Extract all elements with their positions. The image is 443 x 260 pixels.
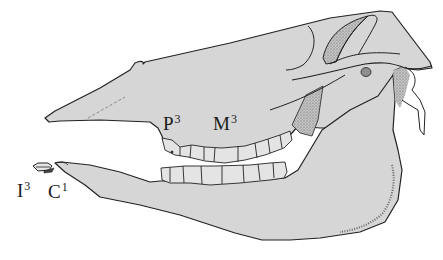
label-p3: P3 (163, 113, 181, 133)
label-i3: I3 (17, 180, 30, 200)
label-i3-sup: 3 (24, 179, 30, 193)
ear-canal (361, 68, 371, 77)
label-m3-base: M (213, 113, 230, 134)
label-p3-base: P (163, 113, 174, 134)
incisor-i3 (33, 163, 54, 173)
label-i3-base: I (17, 180, 23, 201)
label-m3-sup: 3 (231, 112, 237, 126)
label-m3: M3 (213, 113, 237, 133)
label-c1: C1 (48, 181, 68, 201)
label-c1-base: C (48, 181, 61, 202)
tmj-stipple (393, 67, 410, 108)
label-p3-sup: 3 (175, 112, 181, 126)
label-c1-sup: 1 (62, 180, 68, 194)
